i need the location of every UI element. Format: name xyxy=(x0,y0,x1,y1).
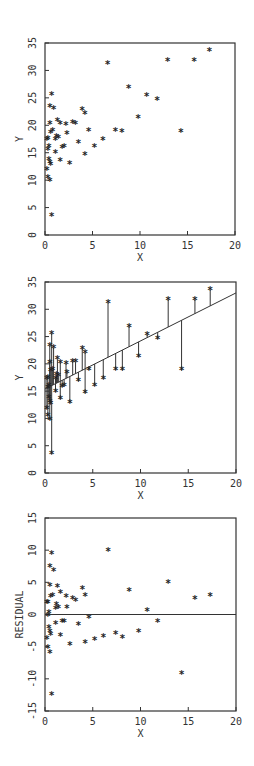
y-tick-label: 0 xyxy=(27,232,38,238)
data-point-asterisk-icon: * xyxy=(60,617,66,628)
data-point-asterisk-icon: * xyxy=(76,138,82,149)
data-point-asterisk-icon: * xyxy=(145,606,151,617)
data-point-asterisk-icon: * xyxy=(49,549,55,560)
data-point-asterisk-icon: * xyxy=(126,586,132,597)
x-tick-label: 0 xyxy=(42,478,48,489)
regression-fit-plot: 0510152005101520253035XY****************… xyxy=(14,276,242,501)
data-point-asterisk-icon: * xyxy=(49,690,55,701)
x-tick-label: 5 xyxy=(90,716,96,727)
data-point-asterisk-icon: * xyxy=(119,127,125,138)
y-tick-label: 25 xyxy=(27,92,38,104)
x-axis-label: X xyxy=(137,728,143,739)
data-point-asterisk-icon: * xyxy=(49,449,55,460)
data-point-asterisk-icon: * xyxy=(192,594,198,605)
y-axis-label: RESIDUAL xyxy=(14,590,25,638)
data-point-asterisk-icon: * xyxy=(82,348,88,359)
y-axis-label: Y xyxy=(14,136,25,142)
x-tick-label: 20 xyxy=(229,240,241,251)
data-point-asterisk-icon: * xyxy=(105,546,111,557)
y-tick-label: 10 xyxy=(27,412,38,424)
y-tick-label: -10 xyxy=(27,670,38,688)
data-point-asterisk-icon: * xyxy=(192,56,198,67)
data-point-asterisk-icon: * xyxy=(73,596,79,607)
data-point-asterisk-icon: * xyxy=(49,211,55,222)
y-tick-label: 20 xyxy=(27,119,38,131)
data-point-asterisk-icon: * xyxy=(86,365,92,376)
data-point-asterisk-icon: * xyxy=(82,591,88,602)
data-point-asterisk-icon: * xyxy=(73,119,79,130)
data-point-asterisk-icon: * xyxy=(92,635,98,646)
data-point-asterisk-icon: * xyxy=(192,295,198,306)
data-point-asterisk-icon: * xyxy=(53,604,59,615)
y-tick-label: 35 xyxy=(27,37,38,49)
x-tick-label: 15 xyxy=(182,716,194,727)
data-point-asterisk-icon: * xyxy=(59,143,65,154)
x-tick-label: 5 xyxy=(90,478,96,489)
x-tick-label: 10 xyxy=(134,478,146,489)
data-point-asterisk-icon: * xyxy=(73,357,79,368)
data-point-asterisk-icon: * xyxy=(101,374,107,385)
data-point-asterisk-icon: * xyxy=(136,627,142,638)
plot-frame xyxy=(45,43,235,235)
x-tick-label: 5 xyxy=(89,240,95,251)
x-tick-label: 20 xyxy=(230,478,242,489)
data-point-asterisk-icon: * xyxy=(76,620,82,631)
y-tick-label: 5 xyxy=(27,205,38,211)
y-tick-label: 0 xyxy=(27,611,38,617)
data-point-asterisk-icon: * xyxy=(51,343,57,354)
data-point-asterisk-icon: * xyxy=(67,159,73,170)
data-point-asterisk-icon: * xyxy=(92,381,98,392)
scatter-plot-y-vs-x: 0510152005101520253035XY****************… xyxy=(14,37,241,263)
y-tick-label: 15 xyxy=(27,385,38,397)
data-point-asterisk-icon: * xyxy=(76,376,82,387)
data-point-asterisk-icon: * xyxy=(60,382,66,393)
data-point-asterisk-icon: * xyxy=(82,638,88,649)
x-tick-label: 20 xyxy=(230,716,242,727)
data-point-asterisk-icon: * xyxy=(49,329,55,340)
data-point-asterisk-icon: * xyxy=(82,388,88,399)
data-point-asterisk-icon: * xyxy=(47,415,53,426)
data-point-asterisk-icon: * xyxy=(58,394,64,405)
data-point-asterisk-icon: * xyxy=(105,59,111,70)
data-point-asterisk-icon: * xyxy=(208,591,214,602)
y-tick-label: 10 xyxy=(27,544,38,556)
y-tick-label: 30 xyxy=(27,64,38,76)
data-point-asterisk-icon: * xyxy=(53,374,59,385)
data-point-asterisk-icon: * xyxy=(51,104,57,115)
data-point-asterisk-icon: * xyxy=(136,352,142,363)
y-tick-label: 5 xyxy=(27,443,38,449)
y-tick-label: 20 xyxy=(27,358,38,370)
y-tick-label: 35 xyxy=(27,276,38,288)
y-tick-label: 0 xyxy=(27,470,38,476)
data-point-asterisk-icon: * xyxy=(120,365,126,376)
data-point-asterisk-icon: * xyxy=(49,90,55,101)
data-point-asterisk-icon: * xyxy=(58,631,64,642)
data-point-asterisk-icon: * xyxy=(82,109,88,120)
residual-plot: 05101520-15-10-5051015XRESIDUAL*********… xyxy=(14,512,242,739)
data-point-asterisk-icon: * xyxy=(113,365,119,376)
plot-frame xyxy=(45,282,236,473)
y-tick-label: 15 xyxy=(27,147,38,159)
x-tick-label: 15 xyxy=(182,478,194,489)
y-tick-label: 30 xyxy=(27,303,38,315)
y-axis-label: Y xyxy=(14,374,25,380)
data-point-asterisk-icon: * xyxy=(120,633,126,644)
data-point-asterisk-icon: * xyxy=(64,129,70,140)
data-point-asterisk-icon: * xyxy=(179,365,185,376)
data-point-asterisk-icon: * xyxy=(166,295,172,306)
data-point-asterisk-icon: * xyxy=(207,46,213,57)
data-point-asterisk-icon: * xyxy=(53,619,59,630)
data-point-asterisk-icon: * xyxy=(126,322,132,333)
x-tick-label: 10 xyxy=(134,240,146,251)
x-tick-label: 0 xyxy=(42,240,48,251)
data-point-asterisk-icon: * xyxy=(64,368,70,379)
data-point-asterisk-icon: * xyxy=(145,330,151,341)
data-point-asterisk-icon: * xyxy=(47,648,53,659)
y-tick-label: 10 xyxy=(27,174,38,186)
data-point-asterisk-icon: * xyxy=(166,578,172,589)
x-tick-label: 0 xyxy=(42,716,48,727)
data-point-asterisk-icon: * xyxy=(113,126,119,137)
data-point-asterisk-icon: * xyxy=(100,135,106,146)
data-point-asterisk-icon: * xyxy=(67,398,73,409)
data-point-asterisk-icon: * xyxy=(63,592,69,603)
